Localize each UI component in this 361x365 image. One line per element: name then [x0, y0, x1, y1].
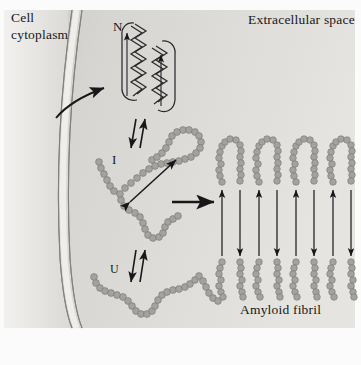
cell-cytoplasm-line1: Cell: [11, 10, 34, 25]
extracellular-space-label: Extracellular space: [248, 12, 355, 28]
cell-cytoplasm-label: Cell cytoplasm: [11, 9, 68, 43]
amyloid-formation-figure: Cell cytoplasm Extracellular space Amylo…: [0, 0, 361, 365]
state-label-unfolded: U: [110, 262, 119, 277]
cell-cytoplasm-line2: cytoplasm: [11, 27, 68, 42]
state-label-intermediate: I: [112, 152, 117, 168]
amyloid-fibril-label: Amyloid fibril: [240, 302, 321, 318]
state-label-native: N: [113, 19, 123, 35]
